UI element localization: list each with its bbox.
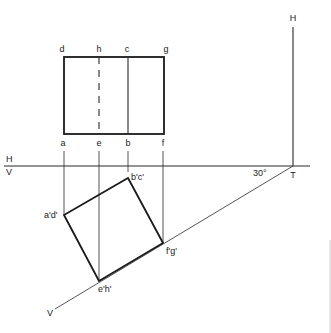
- label-trace-t: T: [290, 170, 296, 180]
- label-vertical-h: H: [290, 13, 297, 23]
- label-c: c: [125, 44, 130, 54]
- label-f: f: [162, 138, 165, 148]
- top-view: [64, 57, 164, 134]
- label-f-g-prime: f'g': [166, 246, 177, 256]
- label-angle: 30°: [253, 168, 267, 178]
- label-xy-v: V: [6, 167, 12, 177]
- label-b-c-prime: b'c': [131, 172, 144, 182]
- label-h: h: [96, 44, 101, 54]
- label-inclined-v: V: [47, 308, 53, 318]
- front-view-square: [64, 178, 163, 281]
- inclined-trace-v: [55, 166, 293, 309]
- projection-diagram: d h c g a e b f H V H V T 30° b'c' a'd' …: [0, 0, 331, 333]
- label-g: g: [163, 44, 168, 54]
- label-b: b: [125, 138, 130, 148]
- label-xy-h: H: [6, 154, 13, 164]
- label-e: e: [96, 138, 101, 148]
- label-a: a: [60, 138, 65, 148]
- plan-rectangle: [64, 57, 164, 134]
- label-a-d-prime: a'd': [44, 210, 58, 220]
- label-e-h-prime: e'h': [98, 284, 112, 294]
- label-d: d: [59, 44, 64, 54]
